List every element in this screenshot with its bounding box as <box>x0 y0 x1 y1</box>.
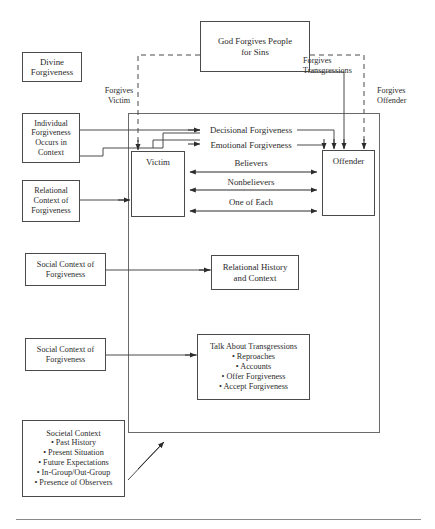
box-relational-context-of-forgiveness: Relational Context of Forgiveness <box>22 180 80 222</box>
relational-context-line-3: Forgiveness <box>31 206 70 216</box>
edge-label-forgives-transgressions: Forgives Transgressions <box>303 56 373 75</box>
forgives-transgressions-line-2: Transgressions <box>303 66 373 76</box>
box-divine-forgiveness: Divine Forgiveness <box>22 52 82 82</box>
edge-label-decisional-forgiveness: Decisional Forgiveness <box>205 125 297 135</box>
divine-forgiveness-line-1: Divine <box>40 57 64 67</box>
list-item: • Offer Forgiveness <box>219 372 288 382</box>
talk-about-transgressions-bullets: • Reproaches • Accounts • Offer Forgiven… <box>219 352 288 392</box>
box-social-context-of-forgiveness-1: Social Context of Forgiveness <box>25 253 106 286</box>
individual-forgiveness-line-3: Occurs in <box>35 138 67 148</box>
list-item: • Present Situation <box>34 448 112 458</box>
edge-label-forgives-offender: Forgives Offender <box>377 86 427 105</box>
edge-label-believers: Believers <box>216 158 286 168</box>
list-item: • In-Group/Out-Group <box>34 468 112 478</box>
societal-context-bullets: • Past History • Present Situation • Fut… <box>34 438 112 488</box>
forgives-victim-line-1: Forgives <box>98 86 140 96</box>
box-victim: Victim <box>131 151 185 217</box>
list-item: • Future Expectations <box>34 458 112 468</box>
list-item: • Reproaches <box>219 352 288 362</box>
forgives-transgressions-line-1: Forgives <box>303 56 373 66</box>
relational-history-line-2: and Context <box>234 273 277 283</box>
box-social-context-of-forgiveness-2: Social Context of Forgiveness <box>25 338 106 371</box>
individual-forgiveness-line-1: Individual <box>34 119 68 129</box>
social-context-2-line-1: Social Context of <box>37 345 94 355</box>
relational-context-line-2: Context of <box>34 196 69 206</box>
list-item: • Past History <box>34 438 112 448</box>
box-societal-context: Societal Context • Past History • Presen… <box>22 420 125 497</box>
social-context-2-line-2: Forgiveness <box>46 355 85 365</box>
list-item: • Accounts <box>219 362 288 372</box>
page-divider-rule <box>16 519 421 520</box>
forgives-victim-line-2: Victim <box>98 96 140 106</box>
box-individual-forgiveness-occurs-in-context: Individual Forgiveness Occurs in Context <box>22 113 80 163</box>
victim-label: Victim <box>146 157 170 167</box>
list-item: • Accept Forgiveness <box>219 382 288 392</box>
divine-forgiveness-line-2: Forgiveness <box>31 67 73 77</box>
edge-label-one-of-each: One of Each <box>216 197 286 207</box>
forgives-offender-line-1: Forgives <box>377 86 427 96</box>
edge-label-nonbelievers: Nonbelievers <box>212 177 290 187</box>
social-context-1-line-2: Forgiveness <box>46 270 85 280</box>
box-offender: Offender <box>322 150 375 216</box>
relational-history-line-1: Relational History <box>223 262 288 272</box>
social-context-1-line-1: Social Context of <box>37 260 94 270</box>
relational-context-line-1: Relational <box>34 186 68 196</box>
forgives-offender-line-2: Offender <box>377 96 427 106</box>
edge-label-forgives-victim: Forgives Victim <box>98 86 140 105</box>
box-god-forgives-people-for-sins: God Forgives People for Sins <box>200 21 310 72</box>
societal-context-heading: Societal Context <box>46 429 100 439</box>
offender-label: Offender <box>333 156 365 166</box>
list-item: • Presence of Observers <box>34 478 112 488</box>
individual-forgiveness-line-2: Forgiveness <box>31 128 70 138</box>
talk-about-transgressions-heading: Talk About Transgressions <box>210 342 297 352</box>
forgiveness-model-diagram: Divine Forgiveness God Forgives People f… <box>0 0 435 529</box>
god-forgives-line-2: for Sins <box>241 47 269 57</box>
individual-forgiveness-line-4: Context <box>38 148 64 158</box>
edge-label-emotional-forgiveness: Emotional Forgiveness <box>205 140 297 150</box>
box-relational-history-and-context: Relational History and Context <box>211 255 299 290</box>
god-forgives-line-1: God Forgives People <box>218 36 292 46</box>
box-talk-about-transgressions: Talk About Transgressions • Reproaches •… <box>197 334 310 400</box>
